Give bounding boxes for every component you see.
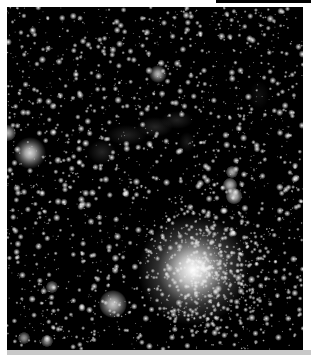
top-bar bbox=[216, 0, 311, 3]
status-bar bbox=[7, 350, 311, 355]
image-viewer[interactable] bbox=[7, 7, 303, 350]
star-field-image bbox=[7, 7, 303, 350]
